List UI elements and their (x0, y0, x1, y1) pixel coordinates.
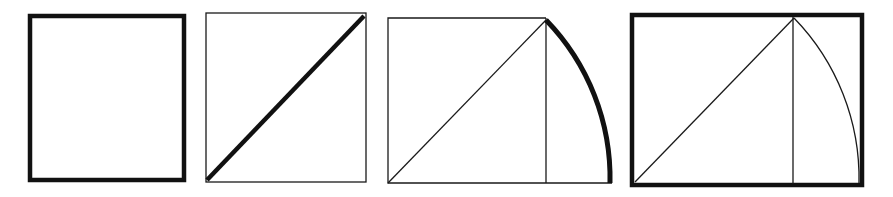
square-outline (388, 18, 612, 183)
step-2-square-diagonal (206, 13, 366, 182)
square-outline (30, 16, 184, 180)
step-3-arc-construction (388, 18, 612, 183)
diagonal-line (635, 18, 794, 182)
rectangle-outline (632, 15, 862, 185)
construction-diagram (0, 0, 893, 197)
diagonal-arc (546, 20, 610, 183)
diagonal-line (207, 16, 364, 180)
step-4-root2-rectangle (632, 15, 862, 185)
diagonal-line (388, 20, 546, 183)
step-1-square (30, 16, 184, 180)
diagonal-arc (794, 18, 859, 183)
